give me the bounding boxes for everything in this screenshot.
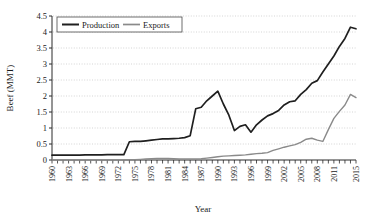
y-tick-label: 4 [43,27,48,37]
x-tick-label: 1990 [214,166,223,182]
x-axis-tick-labels: 1960196319661969197219751978198119841987… [48,166,361,182]
x-tick-label: 2008 [313,166,322,182]
x-tick-label: 1999 [264,166,273,182]
y-tick-label: 1.5 [36,107,47,117]
y-tick-label: 2 [43,91,47,101]
y-tick-label: 1 [43,123,47,133]
x-tick-label: 2002 [280,166,289,182]
beef-production-exports-chart: 00.511.522.533.544.5 1960196319661969197… [0,0,373,220]
y-tick-label: 4.5 [36,11,47,21]
chart-canvas: 00.511.522.533.544.5 1960196319661969197… [0,0,373,220]
x-tick-label: 2005 [297,166,306,182]
legend-label-production: Production [82,20,120,30]
x-tick-label: 2015 [352,166,361,182]
x-tick-label: 1993 [230,166,239,182]
gridlines-group [53,16,356,144]
y-tick-label: 0 [43,155,47,165]
legend-label-exports: Exports [143,20,169,30]
x-tick-label: 1972 [114,166,123,182]
y-tick-label: 3.5 [36,43,47,53]
y-axis-title: Beef (MMT) [5,65,15,112]
x-tick-label: 1987 [197,166,206,182]
y-tick-label: 2.5 [36,75,47,85]
x-tick-label: 1963 [65,166,74,182]
y-tick-label: 0.5 [36,139,47,149]
x-tick-label: 1960 [48,166,57,182]
x-tick-label: 1981 [164,166,173,182]
series-line-production [52,27,356,155]
x-tick-label: 1966 [81,166,90,182]
series-group [52,27,356,160]
x-axis-title: Year [195,204,212,214]
y-axis-tick-labels: 00.511.522.533.544.5 [36,11,47,165]
x-tick-label: 1984 [181,166,190,182]
x-tick-label: 1996 [247,166,256,182]
x-tick-label: 1969 [98,166,107,182]
x-tick-label: 1975 [131,166,140,182]
x-tick-label: 1978 [147,166,156,182]
y-tick-label: 3 [43,59,47,69]
legend: ProductionExports [57,17,182,32]
x-tick-label: 2011 [330,166,339,182]
